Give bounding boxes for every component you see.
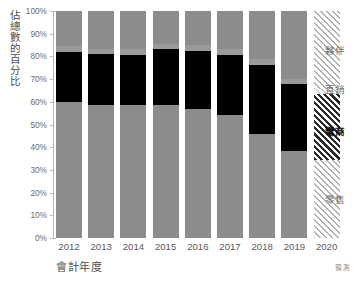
bar-segment-2018-電商[interactable] [249,65,275,134]
y-axis-tick-60: 60% [30,97,47,107]
bar-segment-2012-直銷[interactable] [56,46,82,52]
bar-2015[interactable] [153,11,179,238]
x-axis-tick-2016: 2016 [185,241,211,252]
y-axis-tick-0: 0% [35,233,47,243]
bar-segment-2019-直銷[interactable] [281,79,307,84]
y-axis-tickmark [50,215,53,216]
bar-segment-2017-夥伴[interactable] [217,11,243,49]
legend-item-電商[interactable]: 電商 [325,124,345,138]
bar-segment-2012-零售[interactable] [56,102,82,238]
bar-segment-2019-電商[interactable] [281,84,307,151]
plot-area [54,11,354,238]
bar-segment-2018-零售[interactable] [249,134,275,238]
bar-2018[interactable] [249,11,275,238]
x-axis-tick-labels: 201220132014201520162017201820192020 [54,241,354,257]
stacked-bar-chart: 佔總數的百分比 0%10%20%30%40%50%60%70%80%90%100… [0,0,356,282]
bar-2014[interactable] [120,11,146,238]
x-axis-tick-2013: 2013 [88,241,114,252]
bar-segment-2016-零售[interactable] [185,109,211,238]
bar-segment-2016-夥伴[interactable] [185,11,211,45]
bar-segment-2012-電商[interactable] [56,52,82,101]
y-axis-tickmark [50,34,53,35]
y-axis-tick-10: 10% [30,210,47,220]
y-axis-tickmark [50,193,53,194]
y-axis-tickmark [50,147,53,148]
x-axis-tick-2017: 2017 [217,241,243,252]
bar-segment-2012-夥伴[interactable] [56,11,82,46]
y-axis-tick-20: 20% [30,188,47,198]
y-axis-tick-100: 100% [26,6,47,16]
bar-segment-2019-零售[interactable] [281,151,307,238]
y-axis-tick-80: 80% [30,51,47,61]
bar-segment-2015-零售[interactable] [153,105,179,238]
y-axis-tick-70: 70% [30,74,47,84]
bar-segment-2013-直銷[interactable] [88,49,114,54]
bar-segment-2015-電商[interactable] [153,49,179,105]
bar-segment-2014-電商[interactable] [120,55,146,106]
y-axis-tick-labels: 0%10%20%30%40%50%60%70%80%90%100% [18,0,50,282]
bar-segment-2018-直銷[interactable] [249,59,275,65]
bar-segment-2013-零售[interactable] [88,105,114,238]
y-axis-tick-90: 90% [30,29,47,39]
y-axis-tickmark [50,56,53,57]
bar-2013[interactable] [88,11,114,238]
bar-segment-2014-零售[interactable] [120,105,146,238]
x-axis-tick-2019: 2019 [281,241,307,252]
forecast-footnote: 預測 [335,262,350,272]
bar-segment-2016-電商[interactable] [185,51,211,110]
y-axis-cap [53,11,56,12]
legend-item-夥伴[interactable]: 夥伴 [325,43,345,57]
x-axis-tick-2012: 2012 [56,241,82,252]
x-axis-tick-2014: 2014 [120,241,146,252]
y-axis-cap [53,238,56,239]
bar-2019[interactable] [281,11,307,238]
y-axis-title: 佔總數的百分比 [1,10,19,87]
y-axis-tickmark [50,102,53,103]
bar-segment-2017-零售[interactable] [217,115,243,238]
bar-2017[interactable] [217,11,243,238]
bar-segment-2014-直銷[interactable] [120,49,146,54]
chart-legend: 夥伴直銷電商零售 [325,0,356,245]
y-axis-tickmark [50,170,53,171]
bar-segment-2014-夥伴[interactable] [120,11,146,49]
x-axis-title: 會計年度 [56,258,102,274]
bar-segment-2016-直銷[interactable] [185,45,211,50]
bar-segment-2019-夥伴[interactable] [281,11,307,79]
bar-2016[interactable] [185,11,211,238]
bar-2012[interactable] [56,11,82,238]
legend-item-零售[interactable]: 零售 [325,192,345,206]
legend-item-直銷[interactable]: 直銷 [325,82,345,96]
y-axis-tickmark [50,125,53,126]
y-axis-tick-40: 40% [30,142,47,152]
bar-segment-2017-電商[interactable] [217,55,243,115]
y-axis-tick-30: 30% [30,165,47,175]
y-axis-tick-50: 50% [30,120,47,130]
bar-segment-2015-夥伴[interactable] [153,11,179,44]
bar-segment-2018-夥伴[interactable] [249,11,275,59]
bar-segment-2013-電商[interactable] [88,54,114,105]
bar-segment-2017-直銷[interactable] [217,49,243,54]
bar-segment-2013-夥伴[interactable] [88,11,114,49]
x-axis-tick-2018: 2018 [249,241,275,252]
y-axis-tickmark [50,79,53,80]
bar-segment-2015-直銷[interactable] [153,44,179,49]
x-axis-tick-2015: 2015 [153,241,179,252]
